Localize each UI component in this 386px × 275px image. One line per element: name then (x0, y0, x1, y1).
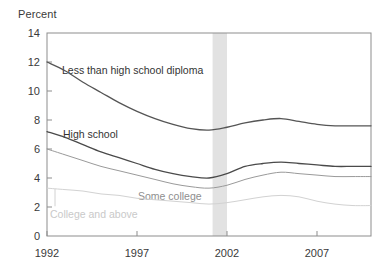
series-line-college-and-above (47, 188, 371, 206)
axis-frame-group (47, 33, 371, 236)
recession-shading-group (213, 33, 227, 236)
series-line-less-than-high-school-diploma (47, 62, 371, 130)
axis-ticks-group (47, 62, 317, 236)
series-line-high-school (47, 132, 371, 179)
recession-band (213, 33, 227, 236)
chart-container: Percent 14 12 10 8 6 4 2 0 1992 1997 200… (0, 0, 386, 275)
plot-frame (47, 33, 371, 236)
plot-area (0, 0, 386, 275)
data-lines-group (47, 62, 371, 206)
series-line-some-college (47, 149, 371, 188)
